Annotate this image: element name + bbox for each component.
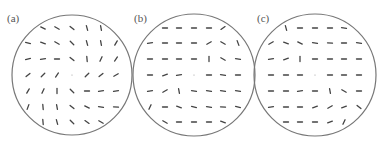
orientation-tick	[269, 59, 274, 60]
orientation-tick	[285, 26, 286, 31]
orientation-tick	[313, 106, 318, 108]
orientation-tick	[328, 121, 333, 123]
orientation-tick	[343, 120, 345, 125]
panel-a	[12, 15, 132, 135]
orientation-tick	[207, 42, 211, 45]
orientation-tick	[41, 73, 45, 77]
orientation-tick	[330, 89, 331, 94]
panel-c	[254, 14, 376, 136]
orientation-tick	[56, 120, 57, 125]
orientation-tick	[357, 43, 362, 44]
orientation-tick	[55, 42, 59, 45]
orientation-tick	[237, 41, 239, 46]
orientation-tick	[70, 120, 74, 124]
orientation-tick	[27, 105, 29, 110]
center-dot	[314, 74, 315, 75]
orientation-tick	[86, 26, 87, 31]
orientation-tick	[27, 89, 30, 93]
orientation-tick	[70, 41, 74, 45]
orientation-tick	[328, 106, 332, 109]
orientation-tick	[298, 91, 303, 92]
orientation-tick	[115, 57, 118, 61]
orientation-tick	[342, 106, 347, 108]
orientation-tick	[192, 91, 197, 92]
orientation-tick	[221, 27, 225, 30]
panel-b	[133, 14, 255, 136]
orientation-tick	[163, 90, 167, 93]
orientation-tick	[177, 106, 182, 108]
orientation-tick	[342, 28, 347, 29]
orientation-tick	[179, 89, 180, 94]
orientation-tick	[70, 26, 74, 29]
orientation-tick	[70, 105, 74, 108]
orientation-tick	[221, 42, 225, 45]
orientation-tick	[236, 59, 241, 60]
orientation-tick	[284, 42, 289, 44]
orientation-tick	[148, 43, 153, 44]
orientation-tick	[269, 107, 274, 108]
orientation-tick	[221, 91, 226, 92]
orientation-tick	[99, 121, 103, 124]
orientation-tick	[99, 107, 104, 108]
orientation-tick	[70, 89, 74, 93]
orientation-tick	[114, 91, 119, 92]
orientation-tick	[85, 106, 90, 108]
orientation-tick	[269, 42, 273, 45]
panel-label-c: (c)	[257, 13, 269, 24]
orientation-tick	[41, 27, 46, 29]
orientation-tick	[41, 59, 46, 60]
orientation-tick	[207, 107, 212, 108]
tick-field-diagram	[0, 0, 385, 146]
orientation-tick	[149, 105, 151, 110]
orientation-tick	[26, 58, 31, 59]
orientation-tick	[42, 89, 44, 94]
orientation-tick	[26, 42, 31, 43]
orientation-tick	[57, 105, 58, 110]
orientation-tick	[313, 43, 318, 44]
orientation-tick	[101, 26, 102, 31]
orientation-tick	[236, 106, 241, 107]
orientation-tick	[298, 42, 303, 44]
orientation-tick	[342, 90, 346, 93]
panel-label-b: (b)	[134, 13, 147, 24]
orientation-tick	[41, 42, 46, 44]
orientation-tick	[284, 58, 289, 60]
center-dot	[193, 74, 194, 75]
orientation-tick	[99, 91, 104, 92]
figure: (a) (b) (c)	[0, 0, 385, 146]
orientation-tick	[99, 73, 103, 76]
orientation-tick	[221, 75, 226, 76]
orientation-tick	[148, 91, 153, 92]
orientation-tick	[221, 58, 225, 61]
orientation-tick	[192, 106, 197, 107]
orientation-tick	[163, 74, 168, 76]
orientation-tick	[163, 121, 167, 124]
orientation-tick	[55, 27, 59, 30]
orientation-tick	[207, 91, 212, 92]
orientation-tick	[115, 41, 118, 45]
orientation-tick	[85, 73, 89, 77]
orientation-tick	[85, 121, 89, 124]
orientation-tick	[26, 73, 30, 76]
panel-label-a: (a)	[7, 13, 19, 24]
orientation-tick	[101, 41, 102, 46]
orientation-tick	[70, 57, 74, 60]
orientation-tick	[357, 105, 361, 108]
orientation-tick	[114, 74, 118, 77]
orientation-tick	[56, 73, 59, 77]
center-dot	[71, 74, 72, 75]
orientation-tick	[100, 57, 102, 62]
orientation-tick	[177, 75, 182, 76]
orientation-tick	[236, 91, 241, 92]
orientation-tick	[86, 41, 87, 46]
orientation-tick	[221, 121, 226, 123]
